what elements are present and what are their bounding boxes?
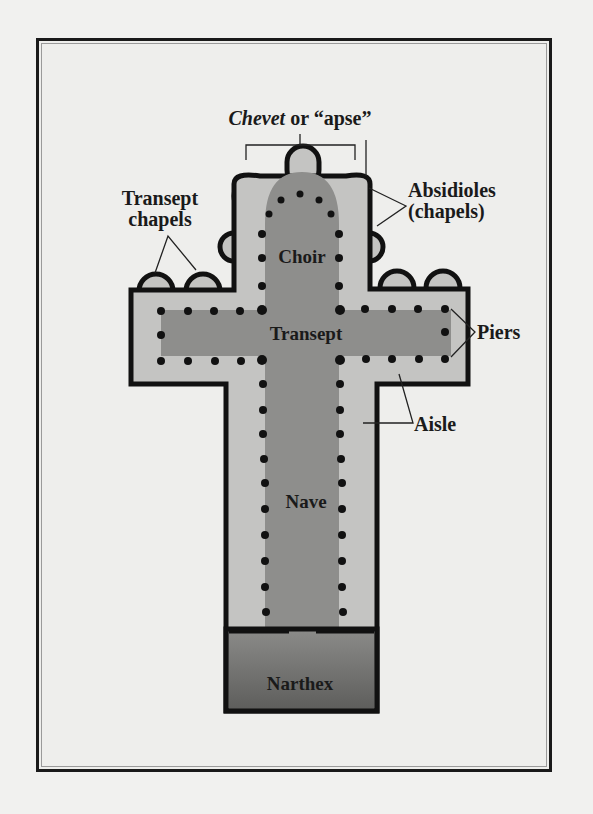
transept-chapels-line1: Transept <box>122 188 198 209</box>
choir-label: Choir <box>278 246 326 268</box>
absidioles-line2: (chapels) <box>408 201 496 222</box>
aisle-label: Aisle <box>414 413 456 435</box>
apse-term: or “apse” <box>285 107 371 129</box>
absidioles-line1: Absidioles <box>408 180 496 201</box>
piers-label: Piers <box>477 321 520 343</box>
transept-chapels-line2: chapels <box>122 209 198 230</box>
transept-label: Transept <box>270 323 342 345</box>
absidioles-label: Absidioles (chapels) <box>408 180 496 222</box>
narthex-block <box>226 629 377 711</box>
central-vessel <box>161 172 451 630</box>
nave-label: Nave <box>285 491 326 513</box>
chevet-apse-label: Chevet or “apse” <box>229 107 372 129</box>
narthex-label: Narthex <box>267 673 333 695</box>
chevet-term: Chevet <box>229 107 286 129</box>
transept-chapels-label: Transept chapels <box>122 188 198 230</box>
